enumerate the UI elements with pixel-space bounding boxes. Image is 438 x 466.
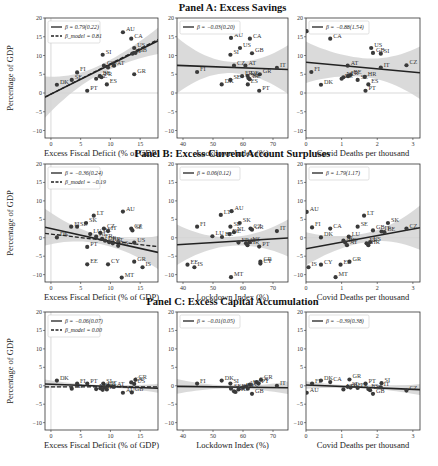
- y-tick-label: 15: [36, 327, 42, 333]
- point-label-dk: DK: [60, 78, 69, 85]
- point-label-gb: GB: [135, 385, 144, 392]
- data-point-nl: [94, 77, 98, 81]
- data-point-dk: [319, 235, 323, 239]
- point-label-ca: CA: [253, 32, 262, 39]
- subplot-0-1: AUCAUSGBSICZATITFIGRFRDENLBESEDKESPT−10−…: [165, 15, 288, 158]
- point-label-pt: PT: [90, 377, 97, 384]
- point-label-mt: MT: [234, 270, 244, 277]
- point-label-at: AT: [117, 380, 125, 387]
- point-label-gb: GB: [255, 46, 264, 53]
- data-point-ca: [129, 380, 133, 384]
- point-label-fi: FI: [200, 377, 206, 384]
- plot-frame: [177, 312, 288, 430]
- point-label-cy: CY: [111, 257, 120, 264]
- point-label-dk: DK: [225, 77, 234, 84]
- data-point-au: [233, 390, 237, 394]
- point-label-at: AT: [351, 380, 359, 387]
- data-point-ca: [328, 37, 332, 41]
- data-point-cz: [404, 63, 408, 67]
- data-point-es: [116, 244, 120, 248]
- y-tick-label: 15: [297, 179, 303, 185]
- subplot-0-2: AUCAUSGBSICZATITFIBEFRNLDESEHRDKESPT−10−…: [294, 15, 420, 158]
- point-label-se: SE: [361, 220, 368, 227]
- x-tick-label: 0: [49, 141, 52, 147]
- point-label-cy: CY: [263, 257, 272, 264]
- legend-label: β = −0.03(0.20): [196, 24, 235, 31]
- data-point-is: [192, 265, 196, 269]
- data-point-si: [379, 52, 383, 56]
- y-tick-label: 10: [36, 198, 42, 204]
- data-point-ee: [185, 263, 189, 267]
- data-point-gb: [250, 392, 254, 396]
- data-point-au: [305, 29, 309, 33]
- legend-label: β_model = −0.19: [64, 179, 106, 185]
- data-point-dk: [319, 378, 323, 382]
- x-tick-label: 0: [305, 141, 308, 147]
- x-tick-label: 10: [107, 433, 113, 439]
- point-label-fi: FI: [200, 65, 206, 72]
- data-point-cz: [404, 226, 408, 230]
- point-label-at: AT: [350, 238, 358, 245]
- point-label-it: IT: [280, 224, 286, 231]
- data-point-it: [379, 65, 383, 69]
- chart-figure: Panel A: Excess SavingsAUCAUSSIGBSIGRCZA…: [0, 0, 438, 466]
- y-tick-label: 5: [171, 71, 174, 77]
- data-point-gb: [371, 228, 375, 232]
- data-point-pt: [257, 89, 261, 93]
- y-tick-label: 0: [171, 235, 174, 241]
- x-tick-label: 5: [79, 141, 82, 147]
- x-axis-label: Covid Deaths per thousand: [317, 292, 410, 302]
- data-point-dk: [55, 235, 59, 239]
- subplot-1-1: AULTFISKSECZGRITLUBEDENLFRATHRUSPTGRCYEE…: [165, 161, 288, 302]
- x-tick-label: 1: [340, 433, 343, 439]
- y-tick-label: 20: [36, 161, 42, 167]
- data-point-cy: [106, 262, 110, 266]
- plot-frame: [306, 312, 420, 430]
- data-point-se: [70, 387, 74, 391]
- point-label-cz: CZ: [409, 384, 417, 391]
- x-tick-label: 40: [180, 433, 186, 439]
- y-tick-label: 0: [171, 383, 174, 389]
- y-tick-label: 5: [39, 71, 42, 77]
- point-label-dk: DK: [324, 230, 333, 237]
- x-tick-label: 10: [107, 285, 113, 291]
- x-axis-label: Excess Fiscal Deficit (% of GDP): [44, 292, 159, 302]
- y-tick-label: 5: [39, 216, 42, 222]
- panel-title: Panel A: Excess Savings: [179, 2, 287, 13]
- data-point-us: [248, 383, 252, 387]
- plot-area: AUCAUSGBSICZATITFIBEFRNLDESEHRDKESPT: [305, 24, 420, 99]
- data-point-us: [248, 240, 252, 244]
- y-tick-label: 0: [300, 90, 303, 96]
- y-tick-label: 20: [297, 161, 303, 167]
- x-axis-label: Covid Deaths per thousand: [317, 440, 410, 450]
- data-point-hr: [363, 75, 367, 79]
- point-label-au: AU: [239, 385, 248, 392]
- x-tick-label: 1: [340, 141, 343, 147]
- data-point-au: [121, 30, 125, 34]
- point-label-nl: NL: [99, 72, 107, 79]
- y-tick-label: 5: [171, 364, 174, 370]
- y-tick-label: −5: [297, 401, 303, 407]
- data-point-fi: [195, 70, 199, 74]
- y-tick-label: 15: [168, 179, 174, 185]
- data-point-si: [228, 53, 232, 57]
- point-label-cz: CZ: [107, 380, 115, 387]
- point-label-dk: DK: [60, 230, 69, 237]
- data-point-dk: [319, 83, 323, 87]
- data-point-cy: [319, 263, 323, 267]
- point-label-hr: HR: [368, 70, 377, 77]
- y-tick-label: 20: [297, 309, 303, 315]
- point-label-sk: SK: [391, 216, 399, 223]
- point-label-it: IT: [384, 61, 390, 68]
- y-tick-label: 15: [36, 179, 42, 185]
- y-tick-label: 5: [300, 364, 303, 370]
- point-label-es: ES: [121, 239, 129, 246]
- data-point-fi: [310, 225, 314, 229]
- point-label-gr: GR: [137, 67, 146, 74]
- data-point-ee: [338, 263, 342, 267]
- point-label-gb: GB: [138, 46, 147, 53]
- y-tick-label: −10: [165, 128, 174, 134]
- data-point-nl: [341, 387, 345, 391]
- point-label-nl: NL: [237, 225, 245, 232]
- point-label-si: SI: [106, 48, 112, 55]
